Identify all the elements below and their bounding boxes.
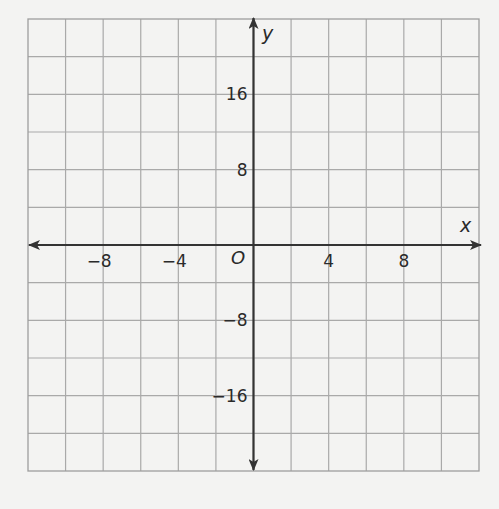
y-tick-label: −8 — [222, 310, 247, 330]
x-axis-label: x — [459, 214, 472, 236]
plot-background — [0, 0, 499, 509]
x-tick-label: −4 — [162, 251, 187, 271]
x-tick-label: 4 — [323, 251, 334, 271]
y-tick-label: −16 — [212, 386, 248, 406]
origin-label: O — [231, 247, 245, 268]
x-tick-label: −8 — [87, 251, 112, 271]
y-axis-label: y — [261, 22, 274, 44]
coordinate-plane: −8−448 168−8−16 O x y — [0, 0, 499, 509]
y-tick-label: 16 — [226, 84, 248, 104]
x-tick-label: 8 — [398, 251, 409, 271]
y-tick-label: 8 — [237, 160, 248, 180]
